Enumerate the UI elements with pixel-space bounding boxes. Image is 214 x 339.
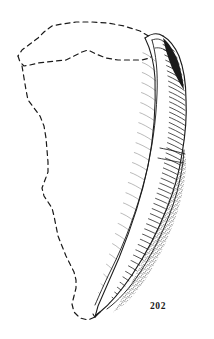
reconstruction-left-contour — [22, 66, 95, 320]
reconstruction-upper-edge — [18, 22, 156, 56]
figure-number-label: 202 — [150, 302, 166, 312]
reconstruction-left-shoulder — [18, 50, 155, 66]
reconstructed-outline-group — [18, 22, 156, 320]
figure-plate — [0, 0, 214, 339]
artifact-illustration — [0, 0, 214, 339]
